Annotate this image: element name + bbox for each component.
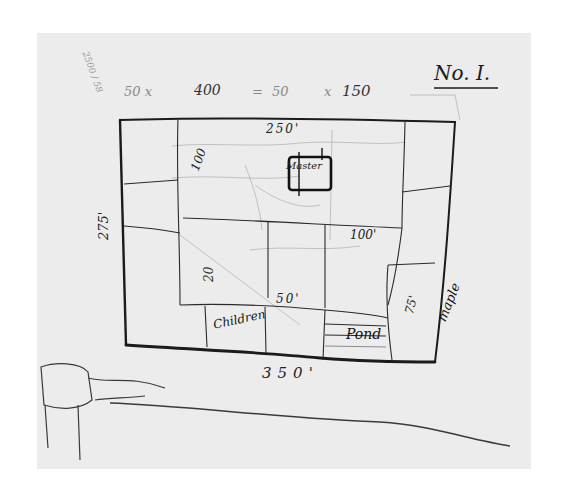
dim-50: 50': [276, 292, 301, 306]
svg-text:No. I.: No. I.: [433, 61, 490, 85]
calc-part: 150: [342, 82, 371, 100]
top-dimension-label: 250': [266, 122, 300, 136]
calc-part: =: [252, 84, 263, 99]
left-dimension-label: 275': [96, 212, 111, 240]
room-pond: Pond: [346, 326, 381, 342]
calc-part: 50: [272, 84, 289, 99]
title-text: No. I.: [432, 58, 512, 92]
dim-100-horizontal: 100': [350, 228, 376, 242]
bottom-dimension-label: 350': [262, 364, 319, 382]
property-boundary: [120, 118, 455, 362]
house-box: [289, 148, 331, 196]
calc-part: 50 x: [124, 84, 152, 99]
top-calculation: 50 x 400 = 50 x 150: [124, 82, 424, 104]
house-label: Master: [286, 160, 322, 171]
calc-part: 400: [194, 82, 221, 98]
faint-guidelines: [172, 95, 460, 325]
dim-20: 20: [202, 267, 216, 282]
lot-divisions: [124, 118, 450, 360]
calc-part: x: [324, 84, 331, 99]
